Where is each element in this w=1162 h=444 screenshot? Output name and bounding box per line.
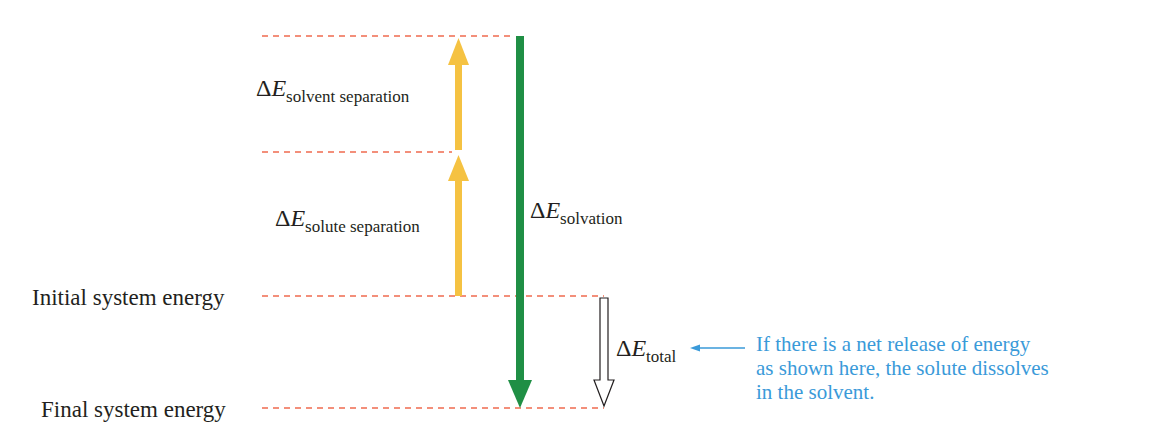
solvation-arrow — [508, 36, 532, 408]
total-arrow — [594, 298, 614, 406]
solute-separation-arrow — [448, 155, 469, 296]
solvent-separation-label: ΔEsolvent separation — [256, 76, 409, 105]
net-release-note: If there is a net release of energy as s… — [756, 332, 1049, 404]
solvent-separation-arrow — [448, 38, 469, 150]
note-pointer-arrow — [690, 345, 745, 352]
total-label: ΔEtotal — [616, 336, 676, 365]
final-energy-label: Final system energy — [41, 398, 226, 421]
solvation-label: ΔEsolvation — [530, 198, 622, 227]
solute-separation-label: ΔEsolute separation — [275, 206, 420, 235]
initial-energy-label: Initial system energy — [32, 286, 224, 309]
